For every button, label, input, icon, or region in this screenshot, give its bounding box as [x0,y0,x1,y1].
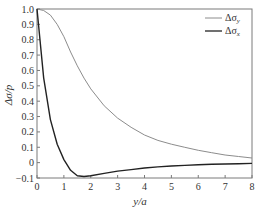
line-chart: −0.100.10.20.30.40.50.60.70.80.91.0 0123… [0,0,260,211]
x-axis-label: y/a [132,195,147,207]
y-axis-label: Δσ/p [2,84,14,106]
y-tick-label: 0.6 [22,65,35,76]
x-tick-label: 3 [115,181,120,192]
y-tick-label: 0.1 [22,142,35,153]
x-tick-label: 2 [88,181,93,192]
y-tick-label: 0.2 [22,126,35,137]
y-tick-label: 0.8 [22,34,35,45]
y-tick-label: 0.3 [22,111,35,122]
legend-label-sigma-y: Δσy [225,12,241,25]
legend: Δσy Δσx [205,12,241,38]
series-layer [37,9,252,177]
x-tick-label: 7 [223,181,228,192]
x-tick-label: 6 [196,181,201,192]
legend-item-sigma-x: Δσx [205,25,241,38]
y-tick-label: 0.7 [22,50,35,61]
x-tick-label: 0 [35,181,40,192]
x-tick-label: 5 [169,181,174,192]
y-tick-label: 0 [29,157,34,168]
x-tick-label: 1 [61,181,66,192]
legend-item-sigma-y: Δσy [205,12,241,25]
plot-frame [37,9,252,178]
y-axis-ticks: −0.100.10.20.30.40.50.60.70.80.91.0 [16,4,40,184]
legend-label-sigma-x: Δσx [225,25,241,38]
y-tick-label: −0.1 [16,173,34,184]
x-tick-label: 4 [142,181,147,192]
y-tick-label: 0.9 [22,19,35,30]
y-tick-label: 1.0 [22,4,35,15]
x-tick-label: 8 [250,181,255,192]
series-line-sigma-x [37,9,252,177]
plot-border [37,9,252,178]
y-tick-label: 0.5 [22,80,35,91]
y-tick-label: 0.4 [22,96,35,107]
